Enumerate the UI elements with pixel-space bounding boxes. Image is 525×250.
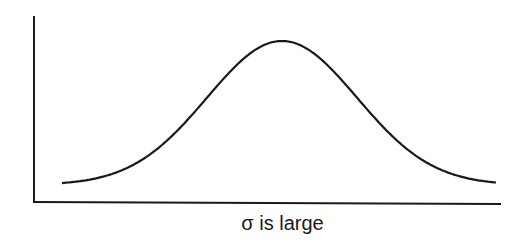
x-axis-label: σ is large: [0, 212, 525, 235]
bell-curve-line: [62, 41, 496, 183]
x-axis: [33, 202, 501, 204]
